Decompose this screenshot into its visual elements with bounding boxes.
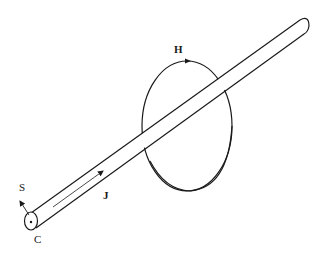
label-c: C (34, 234, 41, 245)
diagram-canvas: H J S C (0, 0, 323, 255)
normal-arrow-s-icon (20, 201, 29, 215)
field-direction-arrow-icon (185, 59, 191, 64)
label-j: J (103, 190, 109, 201)
conductor-rod (31, 18, 309, 228)
cross-section-c (25, 212, 38, 230)
center-dot-icon (30, 221, 32, 223)
label-h: H (174, 44, 183, 55)
current-arrow-j-icon (53, 171, 103, 207)
diagram-svg (0, 0, 323, 255)
label-s: S (19, 182, 25, 193)
